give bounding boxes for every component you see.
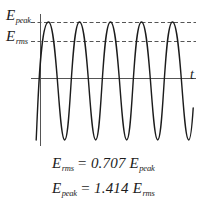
eq2-lhs-symbol: E xyxy=(52,180,61,196)
eq2-operator: = xyxy=(76,180,94,196)
y-axis-label-epeak: Epeak xyxy=(6,7,30,23)
eq1-lhs-subscript: rms xyxy=(62,163,74,173)
erms-symbol: E xyxy=(6,28,15,44)
equation-peak-from-rms: Epeak = 1.414 Erms xyxy=(0,180,206,196)
eq2-rhs-subscript: rms xyxy=(142,188,154,198)
epeak-symbol: E xyxy=(6,7,15,23)
sine-curve xyxy=(36,22,193,140)
eq2-rhs-symbol: E xyxy=(133,180,142,196)
equation-rms-from-peak: Erms = 0.707 Epeak xyxy=(0,155,206,171)
x-axis-label-t: t xyxy=(190,68,194,82)
rms-peak-sine-wave-figure: Epeak Erms t Erms = 0.707 Epeak Epeak = … xyxy=(0,0,206,209)
eq1-rhs-symbol: E xyxy=(130,155,139,171)
waveform-plot xyxy=(0,0,206,209)
eq2-lhs-subscript: peak xyxy=(62,188,77,198)
eq1-rhs-subscript: peak xyxy=(139,163,154,173)
eq1-operator: = xyxy=(73,155,91,171)
erms-subscript: rms xyxy=(16,36,28,46)
eq1-coefficient: 0.707 xyxy=(91,155,130,171)
epeak-subscript: peak xyxy=(16,15,31,25)
y-axis-label-erms: Erms xyxy=(6,28,27,44)
eq1-lhs-symbol: E xyxy=(52,155,61,171)
eq2-coefficient: 1.414 xyxy=(94,180,133,196)
